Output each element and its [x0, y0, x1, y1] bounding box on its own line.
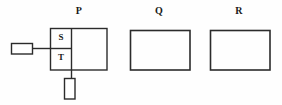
- group-label-p: P: [64, 6, 94, 16]
- cell-label-t: T: [50, 53, 72, 62]
- group-label-q: Q: [144, 6, 174, 16]
- group-label-r: R: [224, 6, 254, 16]
- cell-label-s: S: [50, 33, 72, 42]
- bottom-terminal-rect[interactable]: [65, 79, 76, 100]
- left-terminal-rect[interactable]: [12, 44, 33, 55]
